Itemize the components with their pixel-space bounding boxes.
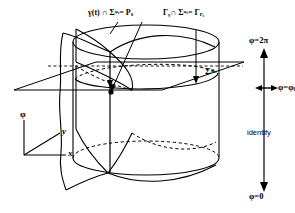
label-phi-top: φ=2π [249, 36, 268, 45]
label-capgamma-intersection: Γγ∩ Σφ₀= ΓP₀ [163, 9, 204, 18]
label-gamma-intersection-main: γ(t) ∩ Σ [88, 8, 115, 17]
label-gamma-intersection-tail-sub: 0 [131, 12, 133, 17]
label-gamma-intersection-tail: = P [119, 8, 130, 17]
gamma-p0-arrowhead [193, 76, 199, 84]
phi0-tick-arrow-left [255, 85, 262, 91]
label-phi-mid-sub: 0 [293, 86, 295, 92]
label-identify: identify [247, 129, 271, 137]
sheet-top-curve-2 [76, 29, 110, 52]
gamma-label-stub [110, 22, 118, 34]
cylinder-bottom-front [73, 158, 219, 175]
gamma-label-leader-line [113, 22, 142, 87]
sheet-cut-upper [110, 36, 215, 52]
axis-label-x: x [68, 149, 73, 158]
cylinder-bottom-back [73, 141, 219, 158]
label-phi-mid-main: φ=φ [278, 82, 293, 92]
sheet-bottom-curve-2 [66, 173, 108, 190]
identify-axis-arrow-up [260, 48, 268, 58]
label-gamma-intersection: γ(t) ∩ Σφ₀= P0 [88, 9, 133, 18]
sheet-cut-lower [108, 165, 216, 181]
label-phi-mid: φ=φ0 [278, 83, 295, 93]
intersection-point-p0 [108, 89, 113, 94]
label-capgamma-tail: = Γ [188, 8, 200, 17]
phi0-tick-arrow-right [271, 85, 278, 91]
diagram-svg [0, 0, 295, 213]
label-sigma-plane: Σφ₀ [205, 67, 216, 76]
sheet-bottom-curve [76, 129, 108, 173]
axis-label-y: y [62, 127, 66, 136]
label-sigma-plane-sup: φ₀ [211, 67, 216, 73]
cylinder-top-ellipse [73, 25, 219, 59]
label-capgamma-mid: ∩ Σ [170, 8, 183, 17]
axis-y-line [24, 133, 60, 155]
sheet-cut-hidden-upper [76, 66, 132, 90]
sheet-cut-lower-2 [108, 133, 132, 173]
sheet-left-edge [60, 33, 66, 190]
axis-label-phi: φ [20, 110, 26, 119]
sheet-top-curve [63, 33, 110, 52]
label-capgamma-tail-sub: P₀ [200, 12, 205, 17]
label-phi-bottom: φ=0 [249, 192, 263, 201]
figure-canvas: γ(t) ∩ Σφ₀= P0 Γγ∩ Σφ₀= ΓP₀ Σφ₀ φ=2π φ=φ… [0, 0, 295, 213]
